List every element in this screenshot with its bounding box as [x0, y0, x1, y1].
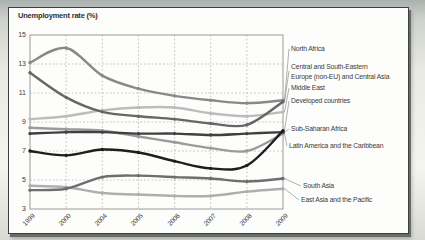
series-point	[245, 164, 248, 167]
series-point	[281, 177, 284, 180]
y-tick-label: 7	[22, 147, 26, 154]
y-tick-label: 3	[22, 205, 26, 212]
series-point	[209, 146, 212, 149]
y-tick-label: 15	[18, 31, 26, 38]
series-point	[245, 190, 248, 193]
series-point	[173, 117, 176, 120]
series-point	[245, 115, 248, 118]
series-point	[209, 122, 212, 125]
series-point	[101, 110, 104, 113]
series-sub-saharan-africa	[30, 132, 283, 135]
series-point	[28, 61, 31, 64]
series-point	[245, 132, 248, 135]
series-point	[173, 106, 176, 109]
series-point	[101, 130, 104, 133]
series-point	[64, 96, 67, 99]
legend-label-latin-america-and-the-caribbean: Latin America and the Caribbean	[289, 141, 411, 151]
series-point	[173, 194, 176, 197]
series-point	[281, 100, 284, 103]
legend-label-central-and-south-eastern-europe-non-eu-and-central-asia: Central and South-Eastern Europe (non-EU…	[291, 62, 413, 81]
leader-line	[285, 129, 290, 132]
series-point	[173, 175, 176, 178]
legend-label-south-asia: South Asia	[303, 181, 425, 191]
series-point	[137, 106, 140, 109]
y-tick-label: 13	[18, 60, 26, 67]
series-point	[137, 174, 140, 177]
legend-label-developed-countries: Developed countries	[291, 96, 413, 106]
series-point	[137, 193, 140, 196]
series-point	[28, 149, 31, 152]
series-point	[101, 175, 104, 178]
series-point	[28, 117, 31, 120]
series-point	[137, 135, 140, 138]
series-point	[101, 191, 104, 194]
leader-line	[285, 101, 290, 131]
leader-line	[285, 179, 302, 186]
leader-line	[285, 189, 300, 200]
series-point	[101, 148, 104, 151]
series-point	[64, 154, 67, 157]
series-point	[137, 87, 140, 90]
series-point	[64, 130, 67, 133]
series-point	[281, 187, 284, 190]
series-point	[173, 159, 176, 162]
series-point	[245, 123, 248, 126]
series-point	[209, 177, 212, 180]
series-point	[137, 115, 140, 118]
series-point	[245, 180, 248, 183]
series-point	[173, 94, 176, 97]
series-point	[281, 110, 284, 113]
legend-label-east-asia-and-the-pacific: East Asia and the Pacific	[301, 195, 423, 205]
series-point	[245, 149, 248, 152]
series-point	[64, 115, 67, 118]
series-north-africa	[30, 48, 283, 103]
series-central-and-south-eastern-europe-non-eu-and-central-asia	[30, 73, 283, 127]
series-point	[28, 132, 31, 135]
series-point	[209, 194, 212, 197]
leader-line	[285, 134, 288, 146]
series-point	[209, 99, 212, 102]
series-point	[28, 184, 31, 187]
series-point	[173, 132, 176, 135]
series-point	[173, 141, 176, 144]
series-point	[28, 126, 31, 129]
y-tick-label: 9	[22, 118, 26, 125]
series-point	[245, 101, 248, 104]
series-point	[28, 188, 31, 191]
series-point	[101, 74, 104, 77]
series-point	[28, 71, 31, 74]
series-point	[137, 151, 140, 154]
series-point	[209, 112, 212, 115]
series-point	[64, 187, 67, 190]
y-tick-label: 11	[19, 89, 26, 96]
series-point	[209, 167, 212, 170]
series-point	[137, 132, 140, 135]
y-tick-label: 5	[22, 176, 26, 183]
series-south-asia	[30, 176, 283, 191]
series-point	[281, 129, 284, 132]
series-point	[64, 128, 67, 131]
legend-label-north-africa: North Africa	[291, 44, 413, 54]
series-point	[64, 46, 67, 49]
legend-label-middle-east: Middle East	[291, 83, 413, 93]
series-point	[209, 133, 212, 136]
legend-label-sub-saharan-africa: Sub-Saharan Africa	[291, 124, 413, 134]
